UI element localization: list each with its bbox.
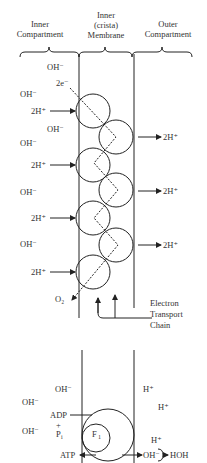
brace-inner [20, 47, 79, 57]
proton-out-arrows: 2H⁺ 2H⁺ 2H⁺ [138, 132, 178, 250]
oh-label: OH⁻ [20, 239, 37, 249]
atp-label: ATP [60, 450, 75, 460]
svg-text:Transport: Transport [150, 309, 183, 319]
svg-text:F: F [92, 429, 97, 439]
svg-text:2H⁺: 2H⁺ [163, 240, 178, 250]
svg-text:Chain: Chain [150, 320, 171, 330]
adp-label: ADP [50, 410, 67, 420]
brace-outer [132, 47, 192, 57]
oh-label: OH⁻ [20, 89, 37, 99]
water-label: HOH [170, 450, 188, 460]
svg-text:(crista): (crista) [94, 20, 118, 30]
svg-text:Compartment: Compartment [17, 29, 64, 39]
svg-text:Inner: Inner [31, 19, 49, 29]
svg-text:2H⁺: 2H⁺ [31, 213, 46, 223]
svg-text:Membrane: Membrane [88, 30, 125, 40]
svg-text:Inner: Inner [97, 10, 115, 20]
oh-label: OH⁻ [22, 426, 39, 436]
svg-text:2H⁺: 2H⁺ [31, 106, 46, 116]
oh-label: OH⁻ [47, 124, 64, 134]
oh-label: OH⁻ [47, 62, 64, 72]
svg-text:2H⁺: 2H⁺ [163, 132, 178, 142]
electron-path [70, 88, 118, 300]
header-inner-compartment: Inner Compartment [17, 19, 64, 39]
etc-pointer [98, 298, 152, 318]
etc-label: Electron Transport Chain [150, 298, 183, 330]
etc-carriers [76, 94, 133, 289]
header-outer-compartment: Outer Compartment [145, 19, 192, 39]
proton-label: H⁺ [143, 384, 154, 394]
svg-text:2H⁺: 2H⁺ [31, 267, 46, 277]
svg-text:i: i [61, 434, 63, 440]
header-membrane: Inner (crista) Membrane [88, 10, 125, 40]
oxygen-label: O₂ [55, 294, 64, 304]
oh-label: OH⁻ [20, 187, 37, 197]
brace-membrane [79, 47, 132, 57]
svg-text:2H⁺: 2H⁺ [31, 160, 46, 170]
svg-text:Compartment: Compartment [145, 29, 192, 39]
svg-text:Outer: Outer [158, 19, 178, 29]
oh-out-label: OH⁻ [143, 450, 160, 460]
svg-text:Electron: Electron [150, 298, 180, 308]
svg-text:1: 1 [98, 434, 101, 440]
oh-label: OH⁻ [22, 397, 39, 407]
svg-text:2H⁺: 2H⁺ [163, 186, 178, 196]
proton-label: H⁺ [151, 435, 162, 445]
electron-label: 2e⁻ [56, 78, 69, 88]
oh-label: OH⁻ [20, 138, 37, 148]
oh-label: OH⁻ [55, 384, 72, 394]
proton-label: H⁺ [158, 402, 169, 412]
f1-atp-synthase: F 1 [82, 409, 134, 461]
electron-transport-diagram: Inner Compartment Inner (crista) Membran… [0, 0, 207, 463]
